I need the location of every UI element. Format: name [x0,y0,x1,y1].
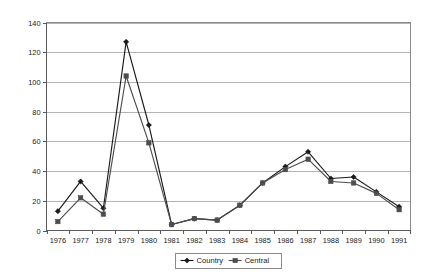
x-tick-label: 1985 [254,236,270,245]
x-tick-label: 1976 [50,236,66,245]
x-tick-label: 1977 [72,236,88,245]
chart-legend[interactable]: CountryCentral [176,253,282,268]
x-tick-label: 1991 [391,236,407,245]
y-tick-label: 80 [32,108,40,117]
y-tick-label: 120 [28,48,40,57]
x-tick-label: 1983 [209,236,225,245]
data-point-central-1988 [329,179,333,183]
data-point-central-1980 [147,141,151,145]
y-tick-label: 40 [32,167,40,176]
data-point-central-1991 [397,208,401,212]
data-point-central-1979 [124,74,128,78]
x-tick-label: 1986 [277,236,293,245]
y-tick-label: 100 [28,78,40,87]
x-tick-label: 1981 [163,236,179,245]
x-tick-label: 1978 [95,236,111,245]
x-tick-label: 1979 [118,236,134,245]
legend-label-central: Central [245,256,270,265]
x-tick-label: 1980 [141,236,157,245]
x-tick-label: 1987 [300,236,316,245]
y-tick-label: 60 [32,137,40,146]
x-tick-label: 1984 [232,236,248,245]
chart-container: 020406080100120140 197619771978197919801… [0,0,426,274]
data-point-central-1978 [101,212,105,216]
data-point-central-1984 [238,203,242,207]
data-point-central-1986 [283,167,287,171]
data-point-central-1983 [215,218,219,222]
legend-label-country: Country [197,256,224,265]
x-tick-label: 1990 [368,236,384,245]
data-point-central-1976 [56,219,60,223]
data-point-central-1981 [169,222,173,226]
chart-background [0,0,426,274]
x-tick-label: 1989 [345,236,361,245]
data-point-central-1985 [260,181,264,185]
y-tick-label: 140 [28,19,40,28]
data-point-central-1987 [306,157,310,161]
legend-marker-square-icon [233,258,237,262]
data-point-central-1989 [351,181,355,185]
data-point-central-1982 [192,216,196,220]
y-tick-label: 20 [32,197,40,206]
data-point-central-1990 [374,191,378,195]
y-tick-label: 0 [36,227,40,236]
x-tick-label: 1982 [186,236,202,245]
x-tick-label: 1988 [323,236,339,245]
data-point-central-1977 [78,196,82,200]
line-chart: 020406080100120140 197619771978197919801… [0,0,426,274]
